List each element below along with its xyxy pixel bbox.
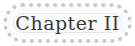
chapter-banner: Chapter II bbox=[3, 3, 132, 43]
chapter-title: Chapter II bbox=[15, 14, 119, 33]
